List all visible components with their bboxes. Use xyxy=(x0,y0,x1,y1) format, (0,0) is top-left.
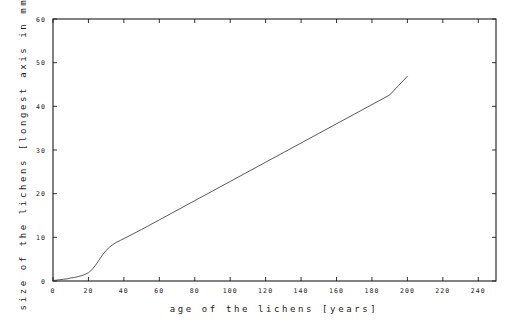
y-tick-label: 10 xyxy=(36,234,46,242)
x-tick-label: 240 xyxy=(471,287,486,295)
x-tick-label: 200 xyxy=(400,287,415,295)
x-tick-label: 20 xyxy=(83,287,93,295)
x-tick-label: 180 xyxy=(364,287,379,295)
x-tick-label: 220 xyxy=(435,287,450,295)
x-tick-label: 160 xyxy=(329,287,344,295)
x-tick-label: 120 xyxy=(258,287,273,295)
y-tick-label: 0 xyxy=(41,278,46,286)
x-tick-label: 80 xyxy=(190,287,200,295)
x-tick-label: 0 xyxy=(50,287,55,295)
y-tick-label: 50 xyxy=(36,59,46,67)
lichen-growth-chart: 020406080100120140160180200220240 010203… xyxy=(0,0,522,325)
y-axis-title: size of the lichens [longest axis in mm] xyxy=(18,0,28,310)
x-tick-label: 140 xyxy=(294,287,309,295)
y-tick-label: 40 xyxy=(36,103,46,111)
chart-canvas: 020406080100120140160180200220240 010203… xyxy=(0,0,522,325)
y-tick-label: 30 xyxy=(36,147,46,155)
x-tick-label: 40 xyxy=(119,287,129,295)
y-tick-label: 60 xyxy=(36,16,46,24)
x-tick-label: 60 xyxy=(154,287,164,295)
y-tick-label: 20 xyxy=(36,190,46,198)
x-axis-title: age of the lichens [years] xyxy=(170,304,378,314)
x-tick-label: 100 xyxy=(223,287,238,295)
